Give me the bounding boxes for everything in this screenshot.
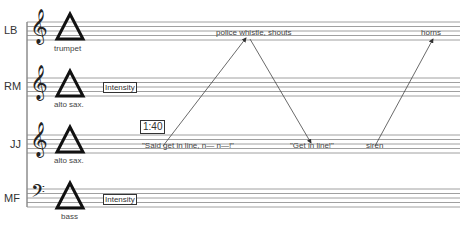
staff-rm <box>27 78 460 96</box>
instrument-label-lb: trumpet <box>54 44 81 53</box>
arrow-police-to-getinline <box>250 39 311 143</box>
bass-clef-icon: 𝄢 <box>31 183 45 205</box>
cue-horns: horns <box>421 28 441 37</box>
cue-police-whistle: police whistle, shouts <box>216 28 292 37</box>
treble-clef-icon: 𝄞 <box>30 11 48 41</box>
cue-said-get-in-line: "Said get in line, n— n—!" <box>142 141 234 150</box>
player-label-rm: RM <box>4 80 21 92</box>
triangle-mf <box>57 183 83 208</box>
player-label-lb: LB <box>4 24 17 36</box>
cue-siren: siren <box>366 141 383 150</box>
staff-jj <box>27 135 460 153</box>
arrow-said-to-police <box>163 38 246 146</box>
player-label-mf: MF <box>4 192 20 204</box>
triangle-rm <box>57 71 83 96</box>
intensity-box-mf: Intensity <box>103 194 137 205</box>
cue-get-in-line: "Get in line!" <box>290 141 334 150</box>
instrument-label-jj: alto sax. <box>54 156 84 165</box>
staff-mf <box>27 189 460 207</box>
instrument-label-rm: alto sax. <box>54 100 84 109</box>
treble-clef-icon: 𝄞 <box>30 124 48 154</box>
treble-clef-icon: 𝄞 <box>30 67 48 97</box>
arrow-siren-to-horns <box>375 39 433 146</box>
graphic-score: LB RM JJ MF 𝄞 𝄞 𝄞 𝄢 trumpet alto sax. al… <box>0 0 465 229</box>
player-label-jj: JJ <box>10 138 21 150</box>
intensity-box-rm: Intensity <box>103 82 137 93</box>
time-marker: 1:40 <box>140 120 165 134</box>
instrument-label-mf: bass <box>61 212 78 221</box>
